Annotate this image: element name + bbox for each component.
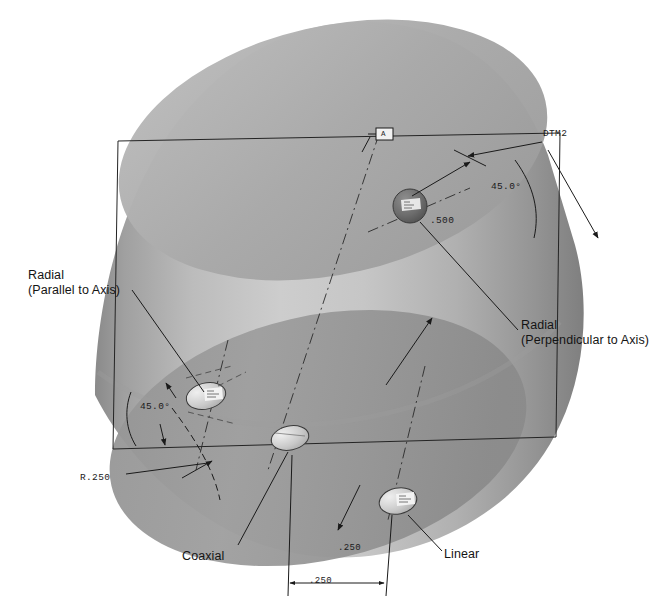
cad-drawing-canvas: Radial (Parallel to Axis) Radial (Perpen… [0,0,664,609]
label-linear-text: Linear [444,547,479,561]
label-radial-perpendicular-line1: Radial [521,318,557,332]
hole-radial-perpendicular [393,189,427,223]
label-radial-parallel-line2: (Parallel to Axis) [28,283,120,298]
dimension-offset-250: .250 [338,543,361,554]
cylinder-technical-illustration [0,0,664,609]
label-coaxial-text: Coaxial [182,549,224,563]
dimension-angle-upper-right: 45.0° [491,181,521,192]
datum-label-dtm2: DTM2 [543,128,567,139]
label-radial-perpendicular-line2: (Perpendicular to Axis) [521,333,649,348]
datum-flag-letter: A [381,130,386,139]
dimension-radius-r250: R.250 [80,472,110,483]
dimension-depth-500: .500 [430,215,454,226]
cylinder-body [84,0,584,605]
label-coaxial: Coaxial [182,549,224,564]
dimension-width-250: .250 [309,576,332,587]
label-linear: Linear [444,547,479,562]
dimension-angle-left: 45.0° [140,401,170,412]
label-radial-parallel: Radial (Parallel to Axis) [28,268,120,299]
label-radial-perpendicular: Radial (Perpendicular to Axis) [521,318,649,349]
label-radial-parallel-line1: Radial [28,268,64,282]
